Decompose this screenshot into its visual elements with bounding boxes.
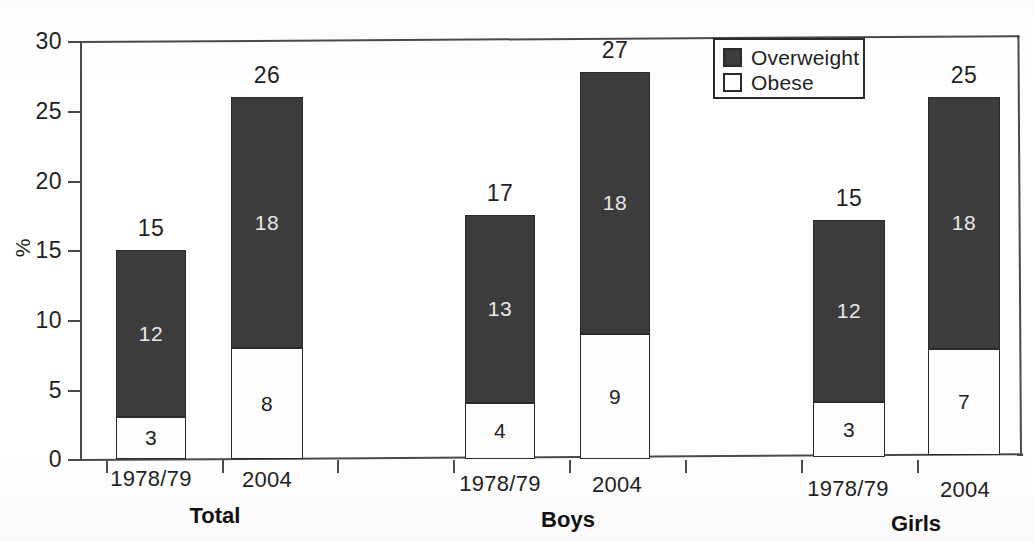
group-label-boys: Boys (508, 507, 628, 533)
bar-total-1978[interactable]: 12 3 (116, 250, 186, 459)
y-axis-label-5: 5 (22, 377, 62, 404)
segment-value: 13 (488, 297, 512, 321)
legend-item-obese[interactable]: Obese (723, 70, 855, 95)
bar-total-label: 25 (928, 62, 1000, 89)
y-axis-label-30: 30 (22, 28, 62, 55)
segment-value: 12 (837, 299, 861, 323)
legend-item-overweight[interactable]: Overweight (723, 45, 855, 70)
x-tick (917, 460, 919, 473)
bar-segment-overweight[interactable]: 18 (231, 97, 303, 348)
bar-segment-obese[interactable]: 3 (813, 402, 885, 457)
bar-segment-overweight[interactable]: 18 (928, 97, 1000, 349)
bar-segment-overweight[interactable]: 12 (813, 220, 885, 402)
y-tick-0 (68, 459, 80, 461)
bar-total-2004[interactable]: 18 8 (231, 97, 303, 459)
y-tick-30 (68, 41, 80, 43)
bar-segment-overweight[interactable]: 18 (580, 72, 650, 334)
y-axis-label-25: 25 (22, 98, 62, 125)
segment-value: 7 (958, 390, 970, 414)
segment-value: 12 (139, 322, 163, 346)
segment-value: 3 (843, 418, 855, 442)
x-tick (801, 460, 803, 473)
x-category-label: 2004 (222, 467, 312, 493)
x-tick (685, 460, 687, 473)
y-tick-25 (68, 111, 80, 113)
segment-value: 3 (145, 426, 157, 450)
bar-total-label: 15 (116, 215, 186, 242)
y-axis-title: % (11, 239, 35, 258)
bar-total-label: 26 (231, 62, 303, 89)
segment-value: 4 (494, 419, 506, 443)
bar-girls-1978[interactable]: 12 3 (813, 220, 885, 457)
x-category-label: 1978/79 (98, 466, 204, 492)
x-tick (569, 460, 571, 473)
bar-segment-obese[interactable]: 9 (580, 334, 650, 459)
legend-swatch-obese-icon (723, 73, 742, 92)
group-label-girls: Girls (856, 511, 976, 537)
x-category-label: 1978/79 (447, 471, 553, 497)
bar-segment-obese[interactable]: 8 (231, 348, 303, 459)
segment-value: 9 (609, 385, 621, 409)
legend-label-obese: Obese (751, 72, 814, 93)
chart-legend: Overweight Obese (713, 38, 865, 99)
y-tick-15 (68, 250, 80, 252)
x-tick (337, 460, 339, 473)
bar-total-label: 15 (813, 185, 885, 212)
y-axis-line (80, 41, 82, 461)
bar-total-label: 17 (465, 180, 535, 207)
y-axis-label-20: 20 (22, 168, 62, 195)
y-tick-5 (68, 390, 80, 392)
y-axis-label-10: 10 (22, 307, 62, 334)
segment-value: 8 (261, 392, 273, 416)
x-category-label: 1978/79 (795, 476, 901, 502)
bar-segment-obese[interactable]: 3 (116, 417, 186, 459)
bar-boys-1978[interactable]: 13 4 (465, 215, 535, 459)
segment-value: 18 (603, 191, 627, 215)
y-tick-20 (68, 181, 80, 183)
bar-total-label: 27 (580, 37, 650, 64)
bar-boys-2004[interactable]: 18 9 (580, 72, 650, 459)
bar-segment-obese[interactable]: 4 (465, 403, 535, 459)
x-category-label: 2004 (920, 477, 1010, 503)
bar-segment-overweight[interactable]: 13 (465, 215, 535, 403)
x-category-label: 2004 (572, 472, 662, 498)
chart-canvas: 30 25 20 15 10 5 0 % 15 12 3 26 18 8 17 … (0, 0, 1033, 541)
y-tick-10 (68, 320, 80, 322)
y-axis-label-0: 0 (22, 446, 62, 473)
bar-girls-2004[interactable]: 18 7 (928, 97, 1000, 455)
group-label-total: Total (155, 503, 275, 529)
legend-swatch-overweight-icon (723, 48, 742, 67)
legend-label-overweight: Overweight (751, 47, 859, 68)
segment-value: 18 (255, 211, 279, 235)
bar-segment-obese[interactable]: 7 (928, 349, 1000, 455)
segment-value: 18 (952, 211, 976, 235)
bar-segment-overweight[interactable]: 12 (116, 250, 186, 417)
